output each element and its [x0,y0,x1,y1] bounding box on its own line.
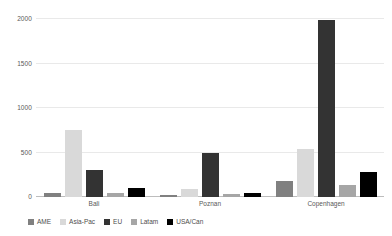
y-axis-tick-label: 0 [0,194,32,201]
bar [223,194,240,197]
bar-group [268,19,384,197]
legend-item[interactable]: AME [28,219,51,226]
legend-swatch-icon [28,219,34,225]
bar [339,185,356,197]
legend-item[interactable]: Asia-Pac [60,219,95,226]
bar [181,189,198,197]
y-axis: 0500100015002000 [0,19,32,197]
bar [318,20,335,197]
legend-swatch-icon [104,219,110,225]
legend-label: USA/Can [176,219,203,226]
y-axis-tick-label: 1000 [0,105,32,112]
legend-swatch-icon [60,219,66,225]
bar [244,193,261,197]
bar-chart: 0500100015002000 BaliPoznanCopenhagen AM… [0,0,392,236]
chart-legend: AMEAsia-PacEULatamUSA/Can [28,219,203,226]
bar [44,193,61,197]
bar [107,193,124,197]
legend-label: EU [113,219,122,226]
bar [128,188,145,197]
legend-label: Asia-Pac [69,219,95,226]
x-axis-tick-label: Copenhagen [307,199,344,208]
bar [360,172,377,197]
legend-label: Latam [140,219,158,226]
legend-item[interactable]: EU [104,219,122,226]
bar [276,181,293,197]
legend-item[interactable]: Latam [131,219,158,226]
bar [297,149,314,197]
bar [65,130,82,197]
plot-area [36,19,384,197]
x-axis-tick-label: Poznan [199,199,221,208]
legend-swatch-icon [131,219,137,225]
legend-label: AME [37,219,51,226]
bar-group [36,19,152,197]
legend-item[interactable]: USA/Can [167,219,203,226]
bar [86,170,103,197]
bar [160,195,177,197]
x-axis-tick-label: Bali [89,199,100,208]
y-axis-tick-label: 1500 [0,60,32,67]
bar-group [152,19,268,197]
x-axis: BaliPoznanCopenhagen [36,199,384,211]
y-axis-tick-label: 2000 [0,16,32,23]
y-axis-tick-label: 500 [0,149,32,156]
bar [202,153,219,197]
legend-swatch-icon [167,219,173,225]
